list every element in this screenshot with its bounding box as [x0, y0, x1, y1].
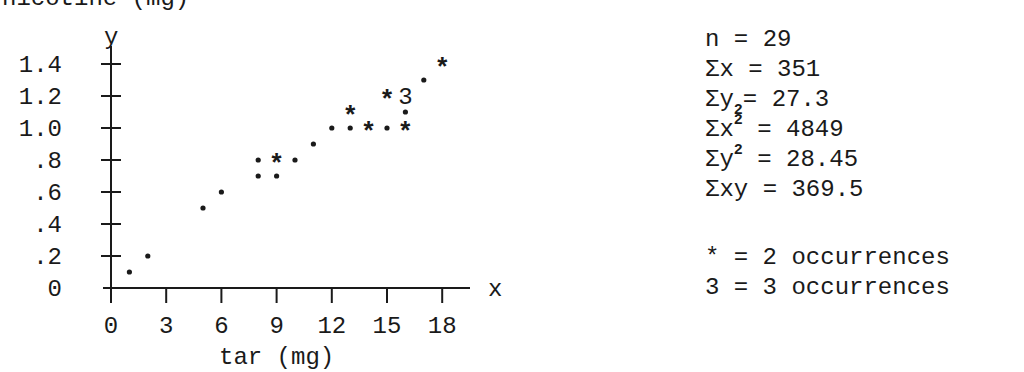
- x-tick-label: 9: [269, 313, 283, 340]
- y-axis-symbol: y: [104, 24, 118, 51]
- stat-sum-y: Σy2= 27.3: [705, 85, 863, 115]
- data-point: [384, 125, 389, 130]
- y-tick-label: .4: [33, 212, 62, 239]
- x-tick-label: 12: [317, 313, 346, 340]
- x-tick-label: 3: [159, 313, 173, 340]
- data-point-star: *: [269, 150, 285, 180]
- data-point: [292, 157, 297, 162]
- data-point-three: 3: [398, 84, 412, 111]
- stat-n: n = 29: [705, 25, 863, 55]
- data-point: [127, 269, 132, 274]
- x-tick-label: 18: [428, 313, 457, 340]
- data-point-star: *: [379, 86, 395, 116]
- data-point: [421, 77, 426, 82]
- data-point: [311, 141, 316, 146]
- summary-statistics: n = 29 Σx = 351 Σy2= 27.3 Σx2 = 4849 Σy2…: [705, 25, 863, 205]
- y-tick-label: 1.0: [19, 116, 62, 143]
- y-tick-label: .2: [33, 244, 62, 271]
- x-tick-label: 15: [373, 313, 402, 340]
- stat-sum-x-squared: Σx2 = 4849: [705, 115, 863, 145]
- stat-sum-y-squared: Σy2 = 28.45: [705, 145, 863, 175]
- x-axis-symbol: x: [488, 276, 502, 303]
- data-point: [329, 125, 334, 130]
- y-tick-label: .6: [33, 180, 62, 207]
- scatter-plot: yx0.2.4.6.81.01.21.40369121518tar (mg)**…: [0, 0, 690, 372]
- x-tick-label: 0: [104, 313, 118, 340]
- data-point-star: *: [398, 118, 414, 148]
- data-point-star: *: [342, 102, 358, 132]
- data-point: [256, 157, 261, 162]
- x-axis-title: tar (mg): [219, 344, 334, 371]
- data-point: [219, 189, 224, 194]
- marker-legend: * = 2 occurrences 3 = 3 occurrences: [705, 243, 950, 303]
- data-point-star: *: [434, 54, 450, 84]
- data-point: [200, 205, 205, 210]
- y-tick-label: 1.4: [19, 52, 62, 79]
- stat-sum-xy: Σxy = 369.5: [705, 175, 863, 205]
- y-tick-label: .8: [33, 148, 62, 175]
- data-point: [256, 173, 261, 178]
- y-tick-label: 1.2: [19, 84, 62, 111]
- data-point-star: *: [361, 118, 377, 148]
- stat-sum-x: Σx = 351: [705, 55, 863, 85]
- legend-item-three: 3 = 3 occurrences: [705, 273, 950, 303]
- x-tick-label: 6: [214, 313, 228, 340]
- legend-item-star: * = 2 occurrences: [705, 243, 950, 273]
- data-point: [145, 253, 150, 258]
- y-tick-label: 0: [48, 276, 62, 303]
